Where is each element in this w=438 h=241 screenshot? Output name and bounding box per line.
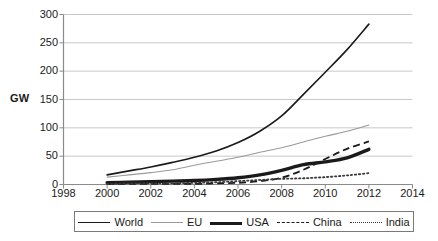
legend-item-usa[interactable]: USA bbox=[210, 216, 269, 228]
legend-item-eu[interactable]: EU bbox=[151, 216, 202, 228]
series-line-eu bbox=[107, 125, 369, 177]
plot-area bbox=[0, 0, 438, 241]
legend-item-china[interactable]: China bbox=[277, 216, 342, 228]
line-solid-thick-icon bbox=[210, 217, 242, 227]
legend-item-label: India bbox=[386, 216, 410, 228]
wind-capacity-line-chart: GW 050100150200250300 199820002002200420… bbox=[0, 0, 438, 241]
line-solid-medium-icon bbox=[78, 217, 110, 227]
series-line-usa bbox=[107, 149, 369, 182]
gridlines bbox=[64, 15, 413, 157]
legend-item-label: China bbox=[313, 216, 342, 228]
axis-ticks bbox=[60, 15, 413, 189]
line-dotted-icon bbox=[350, 217, 382, 227]
legend-item-label: World bbox=[114, 216, 143, 228]
line-solid-thin-gray-icon bbox=[151, 217, 183, 227]
legend-item-india[interactable]: India bbox=[350, 216, 410, 228]
data-series-group bbox=[107, 24, 369, 184]
chart-legend: WorldEUUSAChinaIndia bbox=[74, 211, 414, 232]
line-dashed-icon bbox=[277, 217, 309, 227]
legend-item-world[interactable]: World bbox=[78, 216, 143, 228]
legend-item-label: USA bbox=[246, 216, 269, 228]
legend-item-label: EU bbox=[187, 216, 202, 228]
